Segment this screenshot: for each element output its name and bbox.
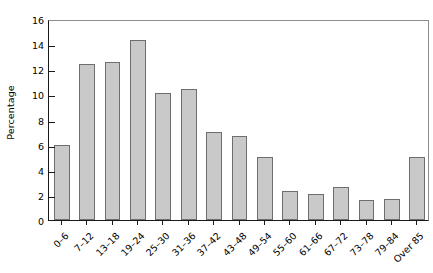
bar (206, 132, 222, 220)
x-axis-tick-mark (239, 221, 240, 225)
y-axis-tick-mark (49, 71, 55, 72)
bar (155, 93, 171, 220)
x-axis-tick-mark (188, 221, 189, 225)
bar (54, 145, 70, 220)
y-axis-tick-mark (49, 96, 55, 97)
x-axis-tick-mark (366, 221, 367, 225)
y-axis-tick-label: 4 (38, 165, 44, 176)
y-axis-tick-mark (49, 147, 55, 148)
y-axis-tick-label: 2 (38, 190, 44, 201)
bar (130, 40, 146, 220)
bars-layer (49, 21, 428, 220)
bar (409, 157, 425, 220)
x-axis-tick-mark (112, 221, 113, 225)
y-axis-tick-mark (49, 172, 55, 173)
plot-area (48, 20, 429, 221)
bar-chart-figure: Percentage 0246810121416 0–67–1213–1819–… (0, 0, 433, 273)
x-axis-tick-mark (137, 221, 138, 225)
y-axis-tick-label: 14 (32, 40, 44, 51)
x-axis-tick-labels: 0–67–1213–1819–2425–3031–3637–4243–4849–… (48, 226, 433, 273)
bar (79, 64, 95, 220)
x-axis-tick-mark (416, 221, 417, 225)
y-axis-tick-mark (49, 197, 55, 198)
y-axis-title: Percentage (0, 0, 20, 225)
y-axis-tick-label: 10 (32, 90, 44, 101)
x-axis-tick-mark (340, 221, 341, 225)
bar (384, 199, 400, 220)
y-axis-title-text: Percentage (5, 85, 16, 139)
bar (359, 200, 375, 220)
y-axis-tick-label: 16 (32, 15, 44, 26)
x-axis-tick-mark (86, 221, 87, 225)
bar (282, 191, 298, 220)
y-axis-tick-label: 8 (38, 115, 44, 126)
x-axis-tick-mark (289, 221, 290, 225)
x-axis-tick-mark (61, 221, 62, 225)
bar (308, 194, 324, 220)
x-axis-tick-mark (391, 221, 392, 225)
y-axis-tick-mark (49, 122, 55, 123)
x-axis-tick-mark (213, 221, 214, 225)
x-axis-tick-mark (162, 221, 163, 225)
bar (333, 187, 349, 220)
x-axis-tick-mark (315, 221, 316, 225)
bar (232, 136, 248, 220)
y-axis-tick-mark (49, 46, 55, 47)
y-axis-tick-label: 0 (38, 216, 44, 227)
y-axis-tick-labels: 0246810121416 (20, 14, 48, 228)
y-axis-tick-label: 12 (32, 65, 44, 76)
y-axis-tick-label: 6 (38, 140, 44, 151)
x-axis-tick-mark (264, 221, 265, 225)
bar (257, 157, 273, 220)
bar (105, 62, 121, 220)
bar (181, 89, 197, 220)
